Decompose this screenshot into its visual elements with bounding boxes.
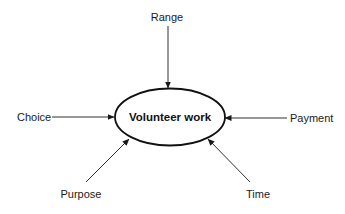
- node-purpose: Purpose: [61, 139, 129, 200]
- center-label: Volunteer work: [129, 111, 212, 123]
- time-arrow: [208, 139, 250, 182]
- center-node: Volunteer work: [115, 89, 225, 146]
- node-time: Time: [208, 139, 270, 200]
- choice-label: Choice: [17, 111, 51, 123]
- node-choice: Choice: [17, 111, 114, 123]
- node-range: Range: [151, 11, 183, 88]
- node-payment: Payment: [225, 112, 333, 124]
- time-label: Time: [246, 188, 270, 200]
- purpose-arrow: [86, 139, 129, 182]
- purpose-label: Purpose: [61, 188, 102, 200]
- volunteer-work-diagram: Volunteer work Range Choice Payment Purp…: [0, 0, 345, 214]
- range-label: Range: [151, 11, 183, 23]
- payment-label: Payment: [290, 112, 333, 124]
